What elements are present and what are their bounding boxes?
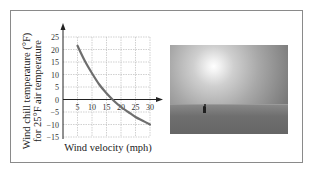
y-tick-label: −15: [46, 133, 59, 142]
x-tick-label: 30: [146, 103, 154, 112]
grid-lines: [63, 37, 150, 137]
x-tick-label: 15: [103, 103, 111, 112]
y-tick-label: −10: [46, 121, 59, 130]
person-figure: [203, 106, 206, 113]
ice-surface: [170, 104, 288, 134]
y-tick-label: 10: [51, 71, 59, 80]
y-axis-arrow: [61, 23, 66, 30]
y-tick-label: 20: [51, 46, 59, 55]
y-tick-label: 0: [55, 96, 59, 105]
x-tick-label: 25: [132, 103, 140, 112]
y-tick-label: 5: [55, 83, 59, 92]
y-tick-labels: 2520151050−5−10−15: [46, 33, 59, 142]
y-tick-label: 25: [51, 33, 59, 42]
x-tick-label: 10: [88, 103, 96, 112]
axes: [61, 23, 164, 139]
y-tick-label: −5: [50, 108, 59, 117]
horizon-line: [170, 104, 288, 105]
y-tick-label: 15: [51, 58, 59, 67]
x-tick-label: 5: [76, 103, 80, 112]
y-axis-label-line2: for 25°F air temperature: [32, 40, 43, 142]
wind-chill-curve: [78, 46, 151, 125]
photo-frozen-landscape: [170, 45, 288, 134]
x-axis-arrow: [156, 97, 163, 102]
x-axis-label: Wind velocity (mph): [64, 142, 152, 154]
x-tick-labels: 51015202530: [76, 103, 155, 112]
